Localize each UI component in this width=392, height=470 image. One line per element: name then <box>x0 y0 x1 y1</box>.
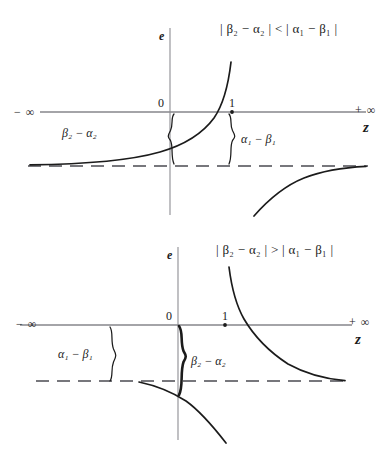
brace-label-left-top: β₂ − α₂ <box>62 127 97 139</box>
figure-container: | β₂ − α₂ | < | α₁ − β₁ | e − ∞ + ∞ z 0 … <box>0 0 392 470</box>
origin-label-bottom: 0 <box>166 310 172 322</box>
brace-label-left-bottom: α₁ − β₁ <box>58 348 93 360</box>
origin-label-top: 0 <box>158 97 164 109</box>
curve-principal-branch <box>229 267 345 381</box>
x-axis-left-infinity-bottom: − ∞ <box>16 318 37 330</box>
brace-right-bottom <box>179 326 186 395</box>
y-axis-label-top: e <box>159 30 164 42</box>
x-axis-label-top: z <box>363 120 369 135</box>
tick-label-one-bottom: 1 <box>222 310 228 322</box>
brace-label-right-bottom: β₂ − α₂ <box>191 355 226 367</box>
brace-left-bottom <box>110 327 116 381</box>
tick-dot-one <box>230 110 234 114</box>
x-axis-right-infinity-top: + ∞ <box>355 104 376 116</box>
tick-dot-one <box>223 323 227 327</box>
x-axis-left-infinity-top: − ∞ <box>14 106 35 118</box>
brace-right-top <box>229 114 235 164</box>
curve-principal-branch <box>30 62 231 165</box>
x-axis-right-infinity-bottom: + ∞ <box>349 316 370 328</box>
panel-bottom: | β₂ − α₂ | > | α₁ − β₁ | e − ∞ + ∞ z 0 … <box>0 235 392 470</box>
condition-expression-top: | β₂ − α₂ | < | α₁ − β₁ | <box>220 22 337 35</box>
tick-label-one-top: 1 <box>229 97 235 109</box>
brace-label-right-top: α₁ − β₁ <box>241 133 276 145</box>
y-axis-label-bottom: e <box>167 249 172 261</box>
condition-expression-bottom: | β₂ − α₂ | > | α₁ − β₁ | <box>216 243 333 256</box>
curve-left-branch <box>139 382 226 443</box>
brace-left-top <box>168 114 174 164</box>
panel-top: | β₂ − α₂ | < | α₁ − β₁ | e − ∞ + ∞ z 0 … <box>0 0 392 235</box>
x-axis-label-bottom: z <box>355 332 361 347</box>
curve-right-branch <box>254 166 366 216</box>
